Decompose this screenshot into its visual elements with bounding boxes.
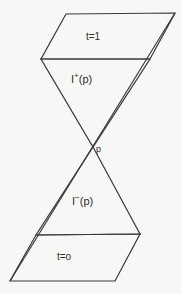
bottom-time-slice-label: t=o (57, 252, 71, 262)
vertex-point-label: p (96, 145, 101, 154)
bottom-time-slice-shape (10, 234, 140, 281)
diagram-canvas (0, 0, 181, 294)
past-light-cone-shape (36, 147, 140, 235)
future-light-cone-shape (41, 59, 150, 147)
light-cone-diagram: t=1 I+(p) p I−(p) t=o (0, 0, 181, 294)
past-cone-argument: (p) (80, 195, 93, 207)
top-time-slice-label: t=1 (86, 32, 100, 42)
right-null-ray (10, 13, 175, 281)
past-light-cone-label: I−(p) (72, 196, 93, 207)
top-time-slice-shape (41, 13, 175, 59)
future-light-cone-label: I+(p) (71, 74, 92, 85)
future-cone-argument: (p) (79, 73, 92, 85)
